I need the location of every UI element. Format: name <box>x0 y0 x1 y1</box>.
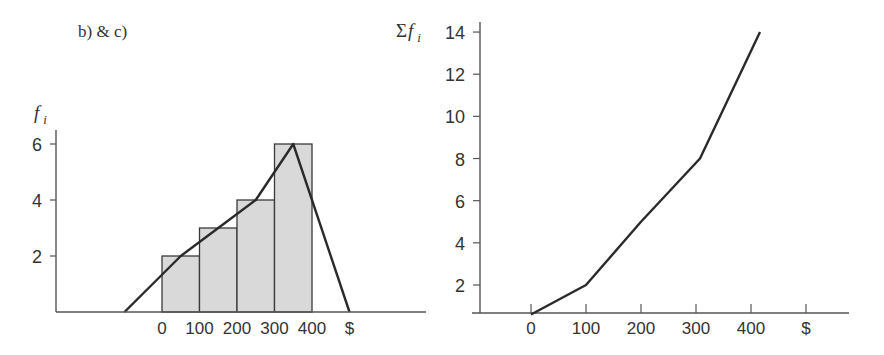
f-symbol: f <box>34 102 42 123</box>
ogive-chart: Σfi 2468101214 0100200300400$ <box>396 20 849 338</box>
x-tick-label: 400 <box>298 319 326 338</box>
subscript-i: i <box>417 30 421 45</box>
cumulative-frequency-line <box>531 32 760 314</box>
y-tick-label: 12 <box>445 65 465 85</box>
histogram-y-ticks: 246 <box>32 135 56 267</box>
x-tick-label: 300 <box>682 319 710 338</box>
x-tick-label: 0 <box>526 319 535 338</box>
ogive-y-axis-label: Σfi <box>396 20 421 45</box>
histogram-x-ticks: 0100200300400$ <box>157 319 355 338</box>
figure-canvas: b) & c) fi 246 0100200300400$ Σfi 246810… <box>0 0 884 355</box>
y-tick-label: 4 <box>455 234 465 254</box>
figure-header-label: b) & c) <box>78 22 127 41</box>
y-tick-label: 10 <box>445 107 465 127</box>
y-tick-label: 2 <box>32 247 42 267</box>
y-tick-label: 4 <box>32 191 42 211</box>
figure: b) & c) fi 246 0100200300400$ Σfi 246810… <box>0 0 884 355</box>
histogram-bar <box>275 144 313 312</box>
x-tick-label: 100 <box>572 319 600 338</box>
y-tick-label: 6 <box>455 192 465 212</box>
x-tick-label: 300 <box>260 319 288 338</box>
histogram-bar <box>162 256 200 312</box>
y-tick-label: 14 <box>445 23 465 43</box>
x-tick-label: 0 <box>157 319 166 338</box>
histogram-bars <box>162 144 312 312</box>
x-tick-label: 400 <box>737 319 765 338</box>
histogram-y-axis-label: fi <box>34 102 47 127</box>
f-symbol: f <box>408 20 416 41</box>
ogive-x-ticks: 0100200300400$ <box>526 304 811 338</box>
histogram-bar <box>237 200 275 312</box>
ogive-y-ticks: 2468101214 <box>445 23 480 296</box>
x-axis-unit-label: $ <box>801 319 811 338</box>
sigma-symbol: Σ <box>396 20 407 41</box>
histogram-bar <box>200 228 238 312</box>
x-tick-label: 200 <box>627 319 655 338</box>
y-tick-label: 2 <box>455 276 465 296</box>
y-tick-label: 6 <box>32 135 42 155</box>
x-axis-unit-label: $ <box>345 319 355 338</box>
x-tick-label: 200 <box>223 319 251 338</box>
histogram-chart: fi 246 0100200300400$ <box>32 102 426 338</box>
y-tick-label: 8 <box>455 150 465 170</box>
subscript-i: i <box>43 112 47 127</box>
x-tick-label: 100 <box>185 319 213 338</box>
